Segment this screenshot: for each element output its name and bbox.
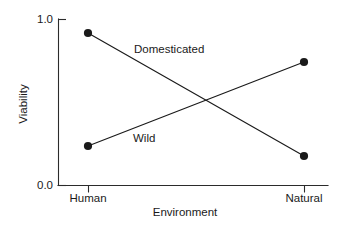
data-point-wild-natural [300,58,308,66]
x-tick-label-human: Human [69,192,106,204]
y-axis-title: Viability [17,84,29,124]
viability-environment-line-chart: 1.0 0.0 Human Natural Environment Viabil… [0,0,346,230]
series-annotation-wild: Wild [133,132,155,144]
chart-figure: 1.0 0.0 Human Natural Environment Viabil… [0,0,346,230]
x-axis-title: Environment [153,206,218,218]
data-point-wild-human [84,142,92,150]
x-tick-label-natural: Natural [285,192,322,204]
y-tick-label-bottom: 0.0 [37,179,53,191]
series-annotation-domesticated: Domesticated [134,43,204,55]
data-point-domesticated-human [84,29,92,37]
y-tick-label-top: 1.0 [37,13,53,25]
data-point-domesticated-natural [300,152,308,160]
